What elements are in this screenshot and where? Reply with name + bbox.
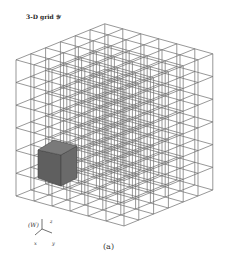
figure-caption: (a) <box>103 242 114 251</box>
frame-label: (W) <box>28 221 39 228</box>
y-axis-arrow <box>42 229 52 233</box>
x-axis-arrow <box>35 229 42 235</box>
y-axis-label: y <box>52 240 55 246</box>
x-axis-label: x <box>34 240 37 246</box>
grid-figure: 3-D grid 𝒴 (a) (W) z x y <box>0 0 226 266</box>
figure-title: 3-D grid 𝒴 <box>26 13 61 21</box>
z-axis-label: z <box>50 218 53 224</box>
